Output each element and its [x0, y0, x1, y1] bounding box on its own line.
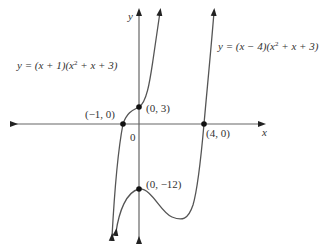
- origin-label: 0: [130, 131, 136, 143]
- equation-2-label: y = (x − 4)(x2 + x + 3): [217, 40, 319, 53]
- equation-1-label: y = (x + 1)(x2 + x + 3): [16, 59, 118, 72]
- label-0-neg12: (0, −12): [146, 178, 182, 191]
- label-neg1-0: (−1, 0): [85, 108, 115, 121]
- point-4-0: [201, 121, 207, 127]
- point-0-neg12: [136, 186, 142, 192]
- x-axis-label: x: [261, 126, 267, 138]
- point-neg1-0: [120, 121, 126, 127]
- y-axis-label: y: [127, 10, 133, 22]
- curve-2-left-branch: [116, 189, 139, 232]
- graph: x y 0 (−1, 0) (0, 3) (4, 0) (0, −12) y =…: [0, 0, 329, 245]
- label-0-3: (0, 3): [146, 102, 170, 115]
- label-4-0: (4, 0): [206, 127, 230, 140]
- point-0-3: [136, 104, 142, 110]
